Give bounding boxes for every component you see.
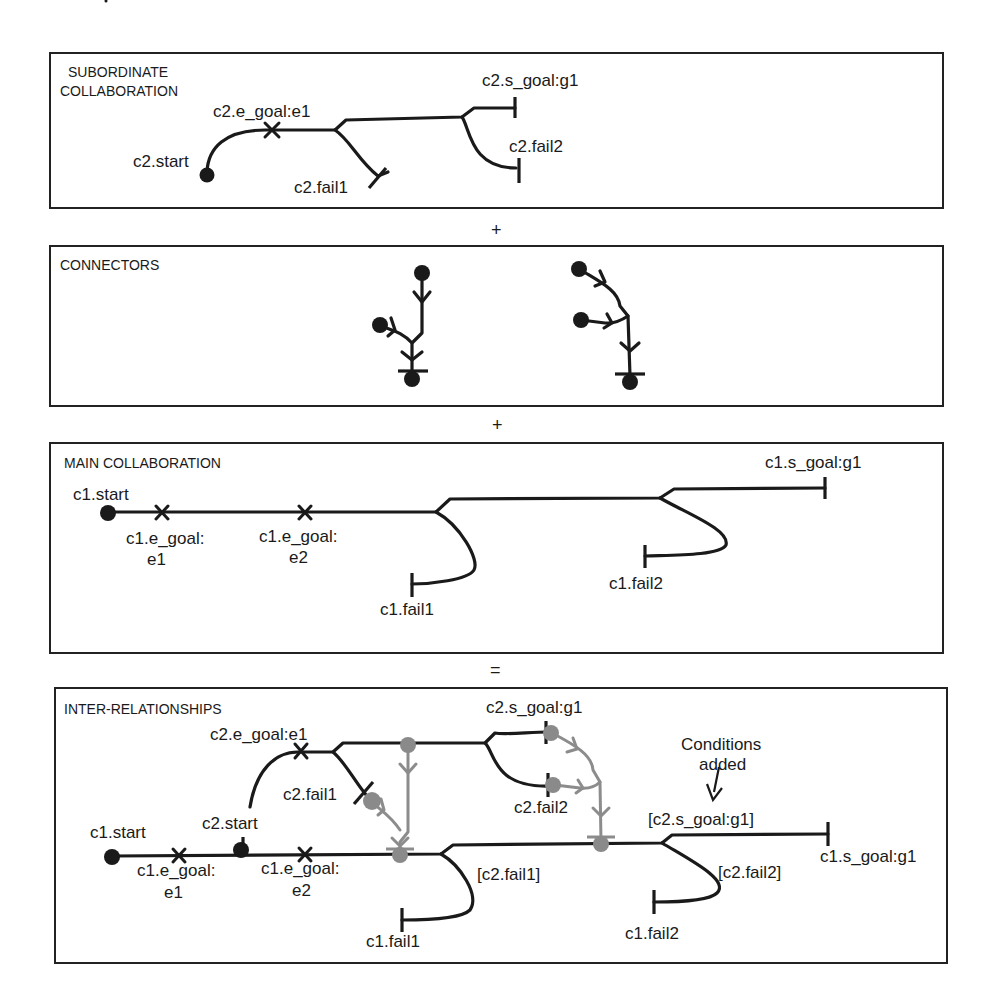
c1-main-path (112, 834, 828, 856)
label-c1-e-goal2-value: e2 (289, 548, 308, 567)
label-c2-fail1: c2.fail1 (294, 178, 348, 197)
panel-frame (50, 443, 943, 653)
label-c1-s-goal: c1.s_goal:g1 (765, 453, 861, 472)
equals-operator: = (490, 660, 501, 680)
panel-title: MAIN COLLABORATION (64, 455, 221, 471)
label-c2-fail1: c2.fail1 (283, 785, 337, 804)
c2-fail1-branch (335, 130, 388, 176)
label-condition-c2-s-goal: [c2.s_goal:g1] (648, 810, 754, 829)
c1-main-path (108, 488, 825, 512)
c2-start-point-icon (233, 842, 249, 858)
connector-end-icon (622, 374, 638, 390)
panel-title-line2: COLLABORATION (60, 83, 178, 99)
label-c1-e-goal1-value: e1 (164, 883, 183, 902)
label-c2-e-goal: c2.e_goal:e1 (213, 102, 310, 121)
c2-fail1-branch (333, 752, 367, 796)
label-c1-fail1: c1.fail1 (366, 932, 420, 951)
label-c1-start: c1.start (73, 485, 129, 504)
panel-subordinate-collaboration: SUBORDINATE COLLABORATION c2.start c2.e_… (50, 53, 943, 208)
label-c2-start: c2.start (133, 152, 189, 171)
c1-start-point-icon (104, 849, 120, 865)
label-c1-e-goal1: c1.e_goal: (126, 529, 204, 548)
c2-fail2-branch (462, 117, 516, 168)
connector-end-icon (404, 371, 420, 387)
label-c2-fail2: c2.fail2 (514, 798, 568, 817)
label-c1-fail2: c1.fail2 (625, 924, 679, 943)
panel-frame (50, 246, 943, 406)
connector-start-icon (545, 777, 561, 793)
label-c2-fail2: c2.fail2 (509, 137, 563, 156)
panel-connectors: CONNECTORS (50, 246, 943, 406)
label-c1-fail2: c1.fail2 (609, 574, 663, 593)
label-c2-e-goal: c2.e_goal:e1 (210, 725, 307, 744)
panel-inter-relationships: INTER-RELATIONSHIPS (55, 688, 947, 963)
label-c1-e-goal1: c1.e_goal: (137, 861, 215, 880)
label-c1-e-goal2-value: e2 (292, 881, 311, 900)
connector-start-icon (400, 737, 416, 753)
label-c1-fail1: c1.fail1 (380, 600, 434, 619)
use-case-map-diagram: SUBORDINATE COLLABORATION c2.start c2.e_… (0, 0, 998, 988)
panel-title: INTER-RELATIONSHIPS (64, 701, 222, 717)
c1-fail2-branch (645, 498, 726, 556)
label-c2-start: c2.start (202, 814, 258, 833)
label-c1-e-goal2: c1.e_goal: (259, 527, 337, 546)
label-c1-s-goal: c1.s_goal:g1 (820, 847, 916, 866)
connector-and-join (372, 265, 430, 387)
panel-main-collaboration: MAIN COLLABORATION c1.start c1.e_goal: e… (50, 1, 943, 653)
label-condition-c2-fail1: [c2.fail1] (477, 865, 540, 884)
panel-title-line1: SUBORDINATE (68, 64, 168, 80)
label-condition-c2-fail2: [c2.fail2] (718, 863, 781, 882)
c1-fail1-branch (412, 512, 475, 584)
panel-frame (55, 688, 947, 963)
label-c2-s-goal: c2.s_goal:g1 (486, 698, 582, 717)
arrow-icon (388, 318, 395, 336)
gray-connector-and-join (363, 737, 416, 863)
start-point-icon (200, 168, 215, 183)
annotation-line2: added (699, 755, 746, 774)
connector-end-icon (593, 836, 609, 852)
c1-fail2-branch (654, 843, 720, 902)
plus-operator: + (492, 415, 503, 435)
label-c2-s-goal: c2.s_goal:g1 (482, 71, 578, 90)
label-c1-e-goal2: c1.e_goal: (261, 859, 339, 878)
connector-end-icon (392, 847, 408, 863)
start-point-icon (100, 505, 116, 521)
arrow-icon (604, 314, 612, 328)
connector-or-join (571, 261, 645, 390)
connector-start-icon (363, 792, 381, 810)
label-c1-e-goal1-value: e1 (147, 550, 166, 569)
gray-connector-or-join (543, 725, 615, 852)
plus-operator: + (491, 220, 502, 240)
connector-start-icon (543, 725, 559, 741)
panel-title: CONNECTORS (60, 257, 159, 273)
c2-fail2-branch (485, 743, 550, 786)
c1-fail1-branch (402, 854, 473, 920)
annotation-line1: Conditions (681, 735, 761, 754)
label-c1-start: c1.start (90, 823, 146, 842)
